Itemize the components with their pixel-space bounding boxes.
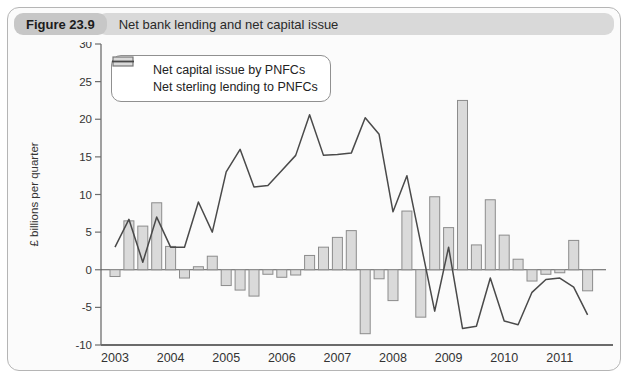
x-tick-label: 2004	[157, 351, 185, 365]
y-tick-label: 30	[79, 42, 92, 50]
bar	[332, 237, 342, 269]
legend-label-bars: Net capital issue by PNFCs	[153, 63, 305, 77]
bar	[416, 270, 426, 317]
bar	[402, 211, 412, 270]
bar	[360, 270, 370, 334]
x-tick-label: 2009	[435, 351, 463, 365]
y-tick-label: 20	[79, 113, 92, 125]
x-tick-label: 2006	[268, 351, 296, 365]
x-axis: 200320042005200620072008200920102011	[101, 345, 613, 365]
figure-title: Net bank lending and net capital issue	[119, 17, 339, 32]
bar	[152, 203, 162, 270]
bar	[138, 226, 148, 270]
bar	[513, 259, 523, 270]
bar-series	[110, 100, 593, 333]
figure-number-pill: Figure 23.9	[14, 13, 107, 35]
y-axis: 302520151050-5-10	[75, 42, 101, 351]
figure-header: Figure 23.9 Net bank lending and net cap…	[14, 13, 614, 35]
legend: Net capital issue by PNFCs Net sterling …	[111, 55, 331, 102]
legend-label-line: Net sterling lending to PNFCs	[153, 80, 318, 94]
bar	[235, 270, 245, 290]
lending-line	[115, 115, 588, 329]
bar	[388, 270, 398, 301]
bar	[569, 240, 579, 269]
bar	[555, 270, 565, 273]
x-tick-label: 2003	[101, 351, 129, 365]
bar	[499, 235, 509, 270]
bar	[305, 255, 315, 269]
x-tick-label: 2005	[212, 351, 240, 365]
legend-item-line: Net sterling lending to PNFCs	[122, 78, 318, 95]
y-tick-label: 5	[86, 226, 92, 238]
bar	[221, 270, 231, 286]
chart-area: 302520151050-5-10£ billions per quarter2…	[16, 42, 616, 368]
figure-panel: Figure 23.9 Net bank lending and net cap…	[7, 7, 621, 371]
bar	[430, 197, 440, 270]
bar	[527, 270, 537, 281]
x-tick-label: 2007	[323, 351, 351, 365]
bar	[583, 270, 593, 291]
figure-title-bar: Net bank lending and net capital issue	[97, 13, 614, 35]
y-tick-label: 15	[79, 151, 92, 163]
bar	[180, 270, 190, 278]
bar	[166, 246, 176, 269]
bar	[110, 270, 120, 277]
bar	[346, 231, 356, 270]
bar	[291, 270, 301, 275]
y-tick-label: 25	[79, 76, 92, 88]
bar	[193, 267, 203, 270]
bar	[458, 100, 468, 269]
bar	[207, 256, 217, 270]
y-tick-label: 0	[86, 264, 92, 276]
x-tick-label: 2010	[490, 351, 518, 365]
bar	[263, 270, 273, 275]
bar	[277, 270, 287, 278]
x-tick-label: 2008	[379, 351, 407, 365]
line-path	[115, 115, 588, 329]
bar	[541, 270, 551, 275]
y-tick-label: -5	[82, 301, 92, 313]
y-tick-label: -10	[75, 339, 92, 351]
bar	[471, 245, 481, 270]
y-tick-label: 10	[79, 189, 92, 201]
bar	[319, 247, 329, 270]
bar	[374, 270, 384, 279]
bar	[249, 270, 259, 296]
y-axis-title: £ billions per quarter	[28, 142, 40, 246]
bar	[485, 200, 495, 270]
legend-item-bars: Net capital issue by PNFCs	[122, 61, 318, 78]
figure-number-label: Figure 23.9	[26, 17, 95, 32]
x-tick-label: 2011	[546, 351, 573, 365]
